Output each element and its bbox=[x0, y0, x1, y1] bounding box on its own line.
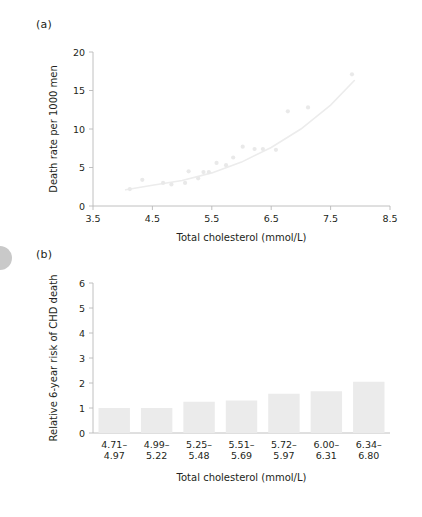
x-tick-label: 3.5 bbox=[85, 213, 100, 224]
scatter-point bbox=[161, 181, 165, 185]
y-tick-label: 5 bbox=[79, 162, 85, 173]
x-category-label: 5.97 bbox=[273, 450, 294, 461]
x-category-label: 5.69 bbox=[231, 450, 252, 461]
bar bbox=[141, 408, 172, 433]
scatter-point bbox=[350, 72, 354, 76]
x-tick-label: 6.5 bbox=[264, 213, 279, 224]
x-axis-title: Total cholesterol (mmol/L) bbox=[176, 232, 307, 243]
y-tick-label: 10 bbox=[73, 124, 85, 135]
bar-chart-relative-risk: 01234564.71–4.974.99–5.225.25–5.485.51–5… bbox=[0, 250, 422, 517]
bar bbox=[311, 391, 342, 433]
scatter-point bbox=[286, 109, 290, 113]
bar bbox=[268, 394, 299, 433]
bar bbox=[99, 408, 130, 433]
y-tick-label: 0 bbox=[79, 428, 85, 439]
figure-container: (a) (b) 051015203.54.55.56.57.58.5Total … bbox=[0, 0, 422, 517]
y-tick-label: 6 bbox=[79, 278, 85, 289]
x-category-label: 4.71– bbox=[101, 439, 127, 450]
x-category-label: 6.00– bbox=[313, 439, 339, 450]
x-category-label: 4.99– bbox=[144, 439, 170, 450]
fit-curve bbox=[126, 80, 355, 189]
scatter-plot-death-rate: 051015203.54.55.56.57.58.5Total choleste… bbox=[0, 0, 422, 250]
x-tick-label: 8.5 bbox=[382, 213, 397, 224]
scatter-point bbox=[207, 170, 211, 174]
x-axis-title: Total cholesterol (mmol/L) bbox=[176, 472, 307, 483]
scatter-point bbox=[224, 163, 228, 167]
x-category-label: 6.80 bbox=[358, 450, 379, 461]
x-category-label: 5.48 bbox=[188, 450, 209, 461]
y-tick-label: 1 bbox=[79, 403, 85, 414]
y-tick-label: 20 bbox=[73, 47, 85, 58]
scatter-point bbox=[241, 145, 245, 149]
scatter-point bbox=[274, 148, 278, 152]
bar bbox=[353, 382, 384, 433]
x-category-label: 5.22 bbox=[146, 450, 167, 461]
x-tick-label: 5.5 bbox=[204, 213, 219, 224]
scatter-point bbox=[261, 147, 265, 151]
scatter-point bbox=[196, 176, 200, 180]
y-axis-title: Relative 6-year risk of CHD death bbox=[48, 275, 59, 442]
y-axis-title: Death rate per 1000 men bbox=[48, 65, 59, 193]
y-tick-label: 2 bbox=[79, 378, 85, 389]
x-category-label: 5.51– bbox=[229, 439, 255, 450]
scatter-point bbox=[128, 187, 132, 191]
x-tick-label: 7.5 bbox=[323, 213, 338, 224]
bar bbox=[183, 402, 214, 433]
scatter-point bbox=[169, 182, 173, 186]
scatter-point bbox=[252, 147, 256, 151]
x-category-label: 5.72– bbox=[271, 439, 297, 450]
scatter-plot-canvas: 051015203.54.55.56.57.58.5Total choleste… bbox=[0, 0, 422, 250]
y-tick-label: 5 bbox=[79, 303, 85, 314]
bar-chart-canvas: 01234564.71–4.974.99–5.225.25–5.485.51–5… bbox=[0, 250, 422, 517]
scatter-point bbox=[187, 169, 191, 173]
y-tick-label: 3 bbox=[79, 353, 85, 364]
scatter-point bbox=[214, 161, 218, 165]
y-tick-label: 15 bbox=[73, 85, 85, 96]
scatter-point bbox=[183, 181, 187, 185]
y-tick-label: 4 bbox=[79, 328, 85, 339]
bar bbox=[226, 401, 257, 434]
x-category-label: 6.34– bbox=[356, 439, 382, 450]
x-category-label: 4.97 bbox=[104, 450, 125, 461]
x-category-label: 5.25– bbox=[186, 439, 212, 450]
scatter-point bbox=[201, 170, 205, 174]
x-tick-label: 4.5 bbox=[145, 213, 160, 224]
scatter-point bbox=[140, 178, 144, 182]
scatter-point bbox=[306, 105, 310, 109]
x-category-label: 6.31 bbox=[316, 450, 337, 461]
scatter-point bbox=[231, 155, 235, 159]
y-tick-label: 0 bbox=[79, 201, 85, 212]
